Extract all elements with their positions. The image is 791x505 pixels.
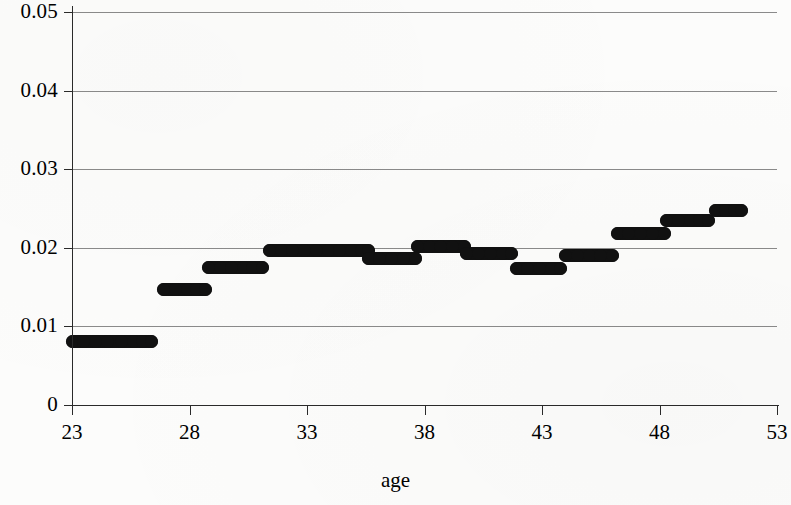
data-point [310, 244, 323, 257]
y-axis-tick-label: 0.04 [20, 80, 58, 101]
x-axis-tick-label: 38 [395, 420, 455, 444]
y-axis-tick [64, 12, 73, 13]
data-point [409, 252, 422, 265]
data-point [411, 240, 424, 253]
y-axis-tick [64, 169, 73, 170]
data-point [101, 335, 114, 348]
data-point [397, 252, 410, 265]
data-point [199, 283, 212, 296]
y-axis-tick-label: 0.05 [20, 1, 58, 22]
x-axis-tick [72, 405, 73, 415]
gridline-y [72, 12, 777, 13]
data-point [646, 227, 659, 240]
data-point [263, 244, 276, 257]
y-axis-tick-label: 0.03 [20, 158, 58, 179]
data-point [658, 227, 671, 240]
gridline-y [72, 169, 777, 170]
data-point [672, 214, 685, 227]
y-axis-tick [64, 248, 73, 249]
y-axis-tick-label: 0 [47, 394, 58, 415]
data-point [169, 283, 182, 296]
x-axis-tick-label: 43 [512, 420, 572, 444]
x-axis-tick-label: 48 [630, 420, 690, 444]
x-axis-tick [542, 405, 543, 415]
data-point [202, 261, 215, 274]
x-axis-tick [307, 405, 308, 415]
scatter-plot-figure: 0.050.040.030.020.010 age 23283338434853 [0, 0, 791, 505]
data-point [484, 247, 497, 260]
x-axis-tick-label: 33 [277, 420, 337, 444]
y-axis-tick-label: 0.02 [20, 237, 58, 258]
x-axis-tick [425, 405, 426, 415]
data-point [115, 335, 128, 348]
data-point [145, 335, 158, 348]
y-axis-tick-label: 0.01 [20, 315, 58, 336]
x-axis-tick [777, 405, 778, 415]
x-axis-tick-label: 28 [160, 420, 220, 444]
data-point [571, 249, 584, 262]
y-axis-line [72, 6, 73, 411]
y-axis-tick [64, 326, 73, 327]
data-point [256, 261, 269, 274]
data-point [505, 247, 518, 260]
plot-area [72, 12, 777, 405]
data-point [606, 249, 619, 262]
x-axis-tick-label: 23 [42, 420, 102, 444]
x-axis-tick [190, 405, 191, 415]
data-point [554, 262, 567, 275]
x-axis-tick [660, 405, 661, 415]
y-axis-tick [64, 91, 73, 92]
x-axis-title: age [0, 468, 791, 492]
x-axis-line [72, 405, 779, 406]
x-axis-tick-label: 53 [747, 420, 791, 444]
gridline-y [72, 91, 777, 92]
data-point [735, 204, 748, 217]
gridline-y [72, 326, 777, 327]
